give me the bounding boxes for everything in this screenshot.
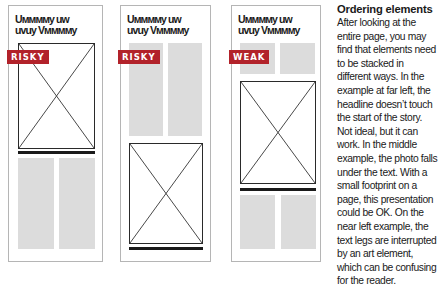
text-leg-right-bottom <box>281 195 316 249</box>
sidebar-text: Ordering elements After looking at the e… <box>337 3 439 288</box>
rating-badge: RISKY <box>118 50 160 64</box>
photo-placeholder <box>240 81 316 184</box>
layout-example-near-left: Uмммму uw uvuy Vммммy <box>231 5 321 262</box>
text-leg-right <box>168 43 202 136</box>
layout-example-far-left: Uмммму uw uvuy Vммммy <box>8 5 103 262</box>
text-leg-left <box>18 158 54 249</box>
headline-line-2: uvuy Vммммy <box>127 25 206 36</box>
text-leg-right <box>59 158 95 249</box>
rating-badge: WEAK <box>229 50 269 64</box>
sidebar-body: After looking at the entire page, you ma… <box>337 16 439 288</box>
cutoff-rule <box>18 151 95 154</box>
headline-placeholder: Uмммму uw uvuy Vммммy <box>238 14 316 36</box>
text-leg-left-bottom <box>240 195 275 249</box>
text-leg-right-top <box>280 43 315 74</box>
cutoff-rule <box>129 247 203 250</box>
photo-placeholder <box>129 143 203 244</box>
headline-line-2: uvuy Vммммy <box>238 25 316 36</box>
photo-x-icon <box>130 144 202 243</box>
cutoff-rule <box>240 188 316 191</box>
sidebar-title: Ordering elements <box>337 3 439 16</box>
headline-line-2: uvuy Vммммy <box>15 25 98 36</box>
layout-example-middle: Uмммму uw uvuy Vммммy <box>120 5 211 262</box>
rating-badge: RISKY <box>7 50 49 64</box>
headline-placeholder: Uмммму uw uvuy Vммммy <box>15 14 98 36</box>
headline-placeholder: Uмммму uw uvuy Vммммy <box>127 14 206 36</box>
photo-x-icon <box>241 82 315 183</box>
